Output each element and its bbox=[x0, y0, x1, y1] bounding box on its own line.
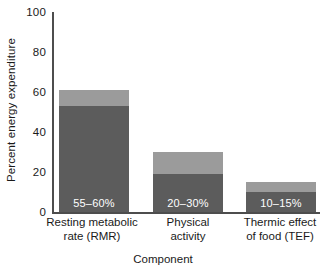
x-category-line-2: rate (RMR) bbox=[46, 230, 138, 244]
x-category-label-physical-activity: Physical activity bbox=[142, 216, 234, 243]
y-tick-label-100: 100 bbox=[0, 6, 46, 18]
bar-thermic-effect-of-food: 10–15% bbox=[246, 182, 316, 212]
bar-lower-segment bbox=[246, 192, 316, 212]
y-tick-label-0: 0 bbox=[0, 206, 46, 218]
y-tick-label-40: 40 bbox=[0, 126, 46, 138]
bar-chart: Percent energy expenditure 100 80 60 40 … bbox=[0, 0, 326, 273]
x-category-line-2: activity bbox=[142, 230, 234, 244]
x-category-line-1: Resting metabolic bbox=[46, 216, 138, 230]
x-category-label-rmr: Resting metabolic rate (RMR) bbox=[46, 216, 138, 243]
y-tick-label-80: 80 bbox=[0, 46, 46, 58]
y-tick-label-60: 60 bbox=[0, 86, 46, 98]
bar-resting-metabolic-rate: 55–60% bbox=[59, 90, 129, 212]
x-category-line-2: of food (TEF) bbox=[234, 230, 326, 244]
bar-upper-segment bbox=[246, 182, 316, 192]
x-axis-title: Component bbox=[0, 253, 326, 265]
x-category-line-1: Thermic effect bbox=[234, 216, 326, 230]
x-axis-line bbox=[52, 212, 320, 214]
bar-physical-activity: 20–30% bbox=[153, 152, 223, 212]
bar-lower-segment bbox=[153, 174, 223, 212]
bar-upper-segment bbox=[153, 152, 223, 174]
bar-lower-segment bbox=[59, 106, 129, 212]
bar-upper-segment bbox=[59, 90, 129, 106]
y-axis-title: Percent energy expenditure bbox=[5, 5, 17, 215]
x-category-label-tef: Thermic effect of food (TEF) bbox=[234, 216, 326, 243]
y-tick-label-20: 20 bbox=[0, 166, 46, 178]
plot-area: 55–60% 20–30% 10–15% bbox=[52, 12, 320, 212]
x-category-line-1: Physical bbox=[142, 216, 234, 230]
